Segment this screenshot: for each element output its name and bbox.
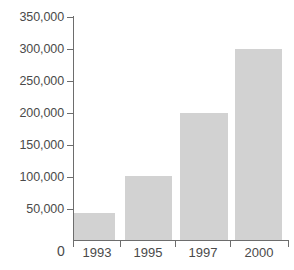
y-axis-tick-label: 150,000: [20, 139, 65, 151]
y-axis-line: [73, 16, 74, 241]
y-axis-tick-label: 200,000: [20, 107, 65, 119]
x-axis-label-1995: 1995: [122, 246, 174, 260]
x-axis-tick: [120, 241, 121, 247]
y-axis-tick-label: 100,000: [20, 171, 65, 183]
y-axis-tick-label: 300,000: [20, 43, 65, 55]
x-axis-label-1997: 1997: [177, 246, 229, 260]
bar-2000: [235, 49, 282, 240]
bar-1993: [74, 213, 115, 240]
x-axis-line: [73, 240, 289, 241]
x-axis-origin-label: 0: [57, 244, 65, 259]
x-axis-label-2000: 2000: [232, 246, 286, 260]
bar-chart: 350,000 300,000 250,000 200,000 150,000 …: [0, 0, 294, 270]
x-axis-tick: [230, 241, 231, 247]
y-axis-tick-label: 50,000: [26, 203, 64, 215]
bar-1997: [180, 113, 228, 240]
x-axis-tick: [175, 241, 176, 247]
x-axis-label-1993: 1993: [74, 246, 120, 260]
y-axis-tick-label: 250,000: [20, 75, 65, 87]
bar-1995: [125, 176, 172, 240]
y-axis-tick-label: 350,000: [20, 11, 65, 23]
x-axis-tick: [288, 241, 289, 247]
